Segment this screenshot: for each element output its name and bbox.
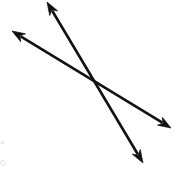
figure-canvas [0,0,180,183]
background-rect [0,0,180,183]
scan-artifact-lower [0,160,6,166]
scan-artifact-upper [1,141,4,144]
intersecting-lines-diagram [0,0,180,183]
